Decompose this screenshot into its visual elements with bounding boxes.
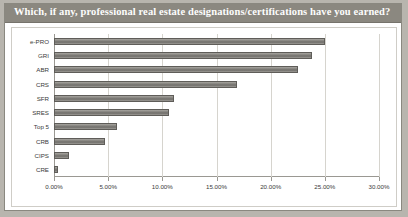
- category-label-top-5: Top 5: [34, 123, 49, 130]
- category-label-crb: CRB: [36, 137, 49, 144]
- bar-row: Top 5: [54, 120, 379, 134]
- bar-cips[interactable]: [54, 152, 69, 159]
- bar-sfr[interactable]: [54, 95, 174, 102]
- category-label-e-pro: e-PRO: [30, 37, 49, 44]
- x-axis-tick: [325, 177, 326, 181]
- x-axis-tick-label: 0.00%: [45, 183, 63, 190]
- chart-card: 0.00%5.00%10.00%15.00%20.00%25.00%30.00%…: [11, 27, 397, 207]
- category-label-gri: GRI: [38, 51, 49, 58]
- bar-row: CRS: [54, 77, 379, 91]
- category-label-cre: CRE: [36, 166, 49, 173]
- bar-row: SRES: [54, 106, 379, 120]
- bar-row: ABR: [54, 63, 379, 77]
- category-label-sfr: SFR: [37, 94, 49, 101]
- x-axis-tick: [108, 177, 109, 181]
- title-bar: Which, if any, professional real estate …: [5, 4, 401, 23]
- bar-row: CRE: [54, 163, 379, 177]
- bar-cre[interactable]: [54, 166, 58, 173]
- category-label-cips: CIPS: [35, 152, 49, 159]
- category-label-crs: CRS: [36, 80, 49, 87]
- x-axis-tick: [54, 177, 55, 181]
- x-axis-tick-label: 30.00%: [369, 183, 390, 190]
- bar-top-5[interactable]: [54, 123, 117, 130]
- x-axis-tick-label: 15.00%: [206, 183, 227, 190]
- x-axis-tick: [217, 177, 218, 181]
- category-label-abr: ABR: [36, 66, 49, 73]
- category-label-sres: SRES: [32, 109, 49, 116]
- bar-row: CIPS: [54, 148, 379, 162]
- x-axis-tick-label: 20.00%: [260, 183, 281, 190]
- x-axis-tick-label: 5.00%: [99, 183, 117, 190]
- x-axis-tick-label: 25.00%: [314, 183, 335, 190]
- bar-row: GRI: [54, 48, 379, 62]
- x-axis-tick: [162, 177, 163, 181]
- bar-crb[interactable]: [54, 138, 105, 145]
- bar-crs[interactable]: [54, 81, 237, 88]
- page-title: Which, if any, professional real estate …: [14, 6, 390, 17]
- chart-window: Which, if any, professional real estate …: [4, 3, 402, 211]
- bar-gri[interactable]: [54, 52, 312, 59]
- bar-e-pro[interactable]: [54, 38, 325, 45]
- x-axis-tick: [271, 177, 272, 181]
- bar-abr[interactable]: [54, 66, 298, 73]
- bar-row: CRB: [54, 134, 379, 148]
- bar-row: SFR: [54, 91, 379, 105]
- plot-area: 0.00%5.00%10.00%15.00%20.00%25.00%30.00%…: [54, 34, 379, 177]
- bar-row: e-PRO: [54, 34, 379, 48]
- bar-sres[interactable]: [54, 109, 169, 116]
- grid-line: [379, 34, 380, 177]
- x-axis-tick-label: 10.00%: [152, 183, 173, 190]
- x-axis-tick: [379, 177, 380, 181]
